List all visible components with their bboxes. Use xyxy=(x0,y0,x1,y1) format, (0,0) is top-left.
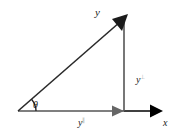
vector-y-label: y xyxy=(94,6,100,18)
parallel-arrowhead-icon xyxy=(112,106,124,117)
parallel-label: y∥ xyxy=(77,117,85,128)
perpendicular-label-sup: ⊥ xyxy=(140,74,145,80)
vector-decomposition-diagram: y y⊥ y∥ x θ xyxy=(0,0,182,137)
x-axis-label: x xyxy=(162,117,168,128)
perpendicular-label: y⊥ xyxy=(135,74,145,85)
vector-y-arrowhead-icon xyxy=(112,14,128,31)
vector-y-line xyxy=(18,22,120,111)
angle-theta-label: θ xyxy=(33,99,38,110)
parallel-label-sup: ∥ xyxy=(82,117,85,124)
x-axis-arrowhead-icon xyxy=(150,105,163,118)
